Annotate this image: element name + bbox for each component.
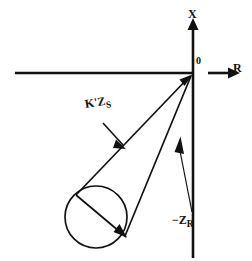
source-label-leader-line	[103, 123, 123, 145]
load-impedance-label-subscript: R	[187, 219, 194, 229]
origin-label: 0	[196, 56, 201, 66]
load-impedance-label-base: −Z	[172, 213, 187, 227]
vertical-axis-label: X	[188, 8, 197, 20]
source-impedance-vector-line	[76, 76, 190, 195]
load-impedance-label: −ZR	[172, 214, 194, 230]
circle-chord-line	[76, 195, 126, 237]
diagram-canvas	[0, 0, 252, 261]
load-label-leader-line	[180, 151, 192, 212]
load-vector-arrowhead-icon	[175, 137, 185, 155]
locus-circle	[65, 186, 127, 248]
horizontal-axis-label: R	[233, 62, 242, 74]
impedance-diagram-figure: X R 0 K'ZS −ZR	[0, 0, 252, 261]
source-impedance-label-base: K'Z	[84, 94, 107, 111]
